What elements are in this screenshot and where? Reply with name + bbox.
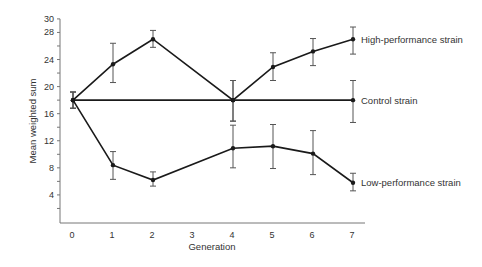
y-axis-title: Mean weighted sum — [27, 78, 38, 163]
y-tick-label: 8 — [49, 163, 54, 173]
y-tick-label: 4 — [49, 190, 54, 200]
data-point — [151, 178, 155, 182]
data-point — [351, 98, 355, 102]
series-label: High-performance strain — [361, 34, 463, 45]
data-point — [351, 37, 355, 41]
series-label: Low-performance strain — [361, 177, 461, 188]
data-point — [231, 98, 235, 102]
data-point — [271, 65, 275, 69]
x-tick-label: 1 — [109, 230, 114, 240]
data-point — [311, 151, 315, 155]
series-labels: High-performance strainControl strainLow… — [361, 34, 463, 189]
x-tick-label: 7 — [349, 230, 354, 240]
series-lines — [73, 39, 353, 183]
data-point — [351, 181, 355, 185]
y-tick-label: 28 — [44, 27, 54, 37]
series-label: Control strain — [361, 95, 418, 106]
data-point — [271, 144, 275, 148]
y-tick-label: 24 — [44, 55, 54, 65]
data-point — [231, 146, 235, 150]
series-line — [73, 39, 353, 100]
y-tick-label: 16 — [44, 109, 54, 119]
x-tick-label: 0 — [69, 230, 74, 240]
x-tick-label: 5 — [269, 230, 274, 240]
data-point — [311, 49, 315, 53]
series-line — [73, 100, 353, 183]
data-point — [111, 62, 115, 66]
x-tick-label: 4 — [229, 230, 234, 240]
data-point — [151, 37, 155, 41]
x-tick-label: 2 — [149, 230, 154, 240]
y-tick-label: 20 — [44, 82, 54, 92]
x-tick-label: 6 — [309, 230, 314, 240]
y-tick-label: 12 — [44, 136, 54, 146]
line-chart: 4812162024283001234567 High-performance … — [0, 0, 482, 267]
axes: 4812162024283001234567 — [44, 14, 365, 240]
data-point — [71, 98, 75, 102]
x-tick-label: 3 — [189, 230, 194, 240]
x-axis-title: Generation — [188, 241, 235, 252]
y-tick-label: 30 — [44, 14, 54, 24]
data-point — [111, 163, 115, 167]
